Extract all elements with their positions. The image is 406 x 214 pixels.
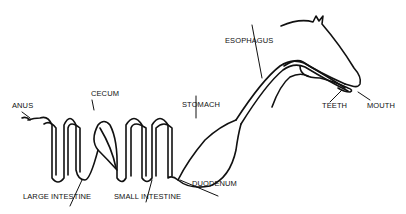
label-cecum: CECUM bbox=[91, 89, 119, 98]
esophagus-path bbox=[236, 61, 345, 120]
small-intestine-path bbox=[117, 119, 178, 182]
label-large-intestine: LARGE INTESTINE bbox=[23, 192, 91, 201]
label-mouth: MOUTH bbox=[367, 101, 395, 110]
label-stomach: STOMACH bbox=[182, 100, 220, 109]
label-teeth: TEETH bbox=[322, 101, 347, 110]
stomach-path bbox=[178, 120, 241, 187]
large-intestine-path bbox=[28, 117, 98, 182]
label-duodenum: DUODENUM bbox=[192, 179, 237, 188]
digestive-tract-diagram: ANUS CECUM STOMACH ESOPHAGUS TEETH MOUTH… bbox=[0, 0, 406, 214]
label-esophagus: ESOPHAGUS bbox=[225, 36, 273, 45]
label-small-intestine: SMALL INTESTINE bbox=[114, 192, 181, 201]
label-anus: ANUS bbox=[12, 101, 33, 110]
